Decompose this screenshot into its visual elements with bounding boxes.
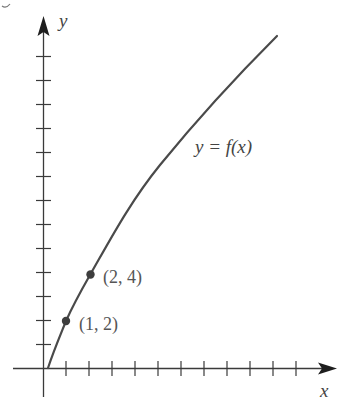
function-graph: (1, 2) (2, 4) y = f(x) y x [0, 0, 346, 405]
y-axis-label: y [57, 10, 68, 31]
point-1-2 [62, 317, 70, 325]
cropped-glyph [2, 4, 10, 7]
x-axis-label: x [319, 380, 329, 401]
point-2-4-label: (2, 4) [103, 267, 142, 288]
point-1-2-label: (1, 2) [79, 314, 118, 335]
point-2-4 [86, 270, 94, 278]
curve-label: y = f(x) [193, 136, 252, 158]
